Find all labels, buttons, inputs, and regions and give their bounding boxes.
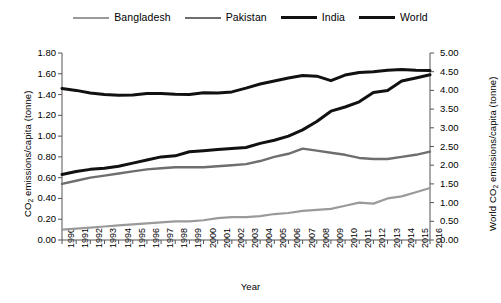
chart-root: BangladeshPakistanIndiaWorld CO2 emissio… bbox=[0, 0, 501, 303]
series-line-bangladesh[interactable] bbox=[62, 188, 430, 230]
chart-plot-area bbox=[0, 0, 501, 303]
